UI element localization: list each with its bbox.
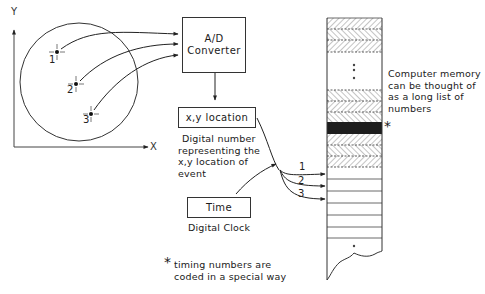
memory-column	[327, 18, 382, 280]
memory-arrow-label-1: 1	[299, 161, 305, 172]
ad-converter-box: A/D Converter	[182, 17, 246, 73]
time-label: Time	[206, 202, 232, 214]
xy-axes	[14, 30, 148, 147]
timing-row-marker: *	[384, 121, 391, 133]
memory-caption: Computer memory can be thought of as a l…	[388, 68, 481, 114]
event-label-2: 2	[67, 84, 73, 95]
footnote-text: timing numbers are coded in a special wa…	[174, 259, 286, 282]
detector-circle	[20, 23, 138, 141]
xy-location-box: x,y location	[178, 107, 256, 128]
time-box: Time	[187, 197, 251, 218]
xy-location-label: x,y location	[186, 112, 249, 124]
timing-row	[327, 122, 382, 134]
ad-converter-line1: A/D	[204, 33, 223, 45]
x-axis-label: X	[150, 141, 157, 152]
event-label-1: 1	[49, 54, 55, 65]
digital-clock-caption: Digital Clock	[188, 222, 250, 234]
memory-arrow-label-2: 2	[298, 175, 304, 186]
y-axis-label: Y	[11, 6, 17, 17]
xy-description: Digital number representing the x,y loca…	[178, 133, 260, 179]
event-label-3: 3	[83, 114, 89, 125]
event-signal-arrows	[61, 32, 178, 110]
memory-arrow-label-3: 3	[298, 188, 304, 199]
footnote-marker: *	[164, 257, 171, 269]
ad-converter-line2: Converter	[187, 45, 240, 57]
